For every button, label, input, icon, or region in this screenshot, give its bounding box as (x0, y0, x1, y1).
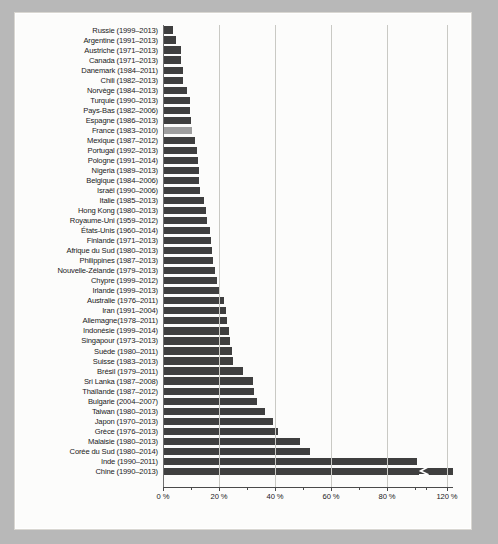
bar-segment (163, 367, 243, 374)
bar-category-label: Brésil (1979–2011) (15, 367, 163, 376)
bar-row: États-Unis (1960–2014) (15, 226, 473, 236)
bar-segment (163, 247, 212, 254)
bar-row: Afrique du Sud (1980–2013) (15, 246, 473, 256)
x-axis-tick-label: 120 % (436, 492, 457, 501)
x-axis-minor-tick (426, 487, 427, 490)
bar-category-label: Grèce (1976–2013) (15, 427, 163, 436)
bar-row: Singapour (1973–2013) (15, 336, 473, 346)
bar-row: Irlande (1999–2013) (15, 286, 473, 296)
bar-row: Inde (1990–2011) (15, 456, 473, 466)
bar-category-label: Singapour (1973–2013) (15, 336, 163, 345)
bar-row: Italie (1985–2013) (15, 196, 473, 206)
bar-row: Suède (1980–2011) (15, 346, 473, 356)
bar-track (163, 426, 473, 436)
bar-segment (163, 237, 211, 244)
bar-row: Finlande (1971–2013) (15, 236, 473, 246)
bar-row: Canada (1971–2013) (15, 55, 473, 65)
bar-row: Argentine (1991–2013) (15, 35, 473, 45)
bar-segment (163, 377, 253, 384)
bar-segment (163, 117, 191, 124)
bar-category-label: Argentine (1991–2013) (15, 36, 163, 45)
bar-category-label: Corée du Sud (1980–2014) (15, 447, 163, 456)
bar-category-label: Portugal (1992–2013) (15, 146, 163, 155)
x-axis-tick (219, 487, 220, 491)
bar-category-label: Chypre (1999–2012) (15, 276, 163, 285)
x-axis-minor-tick (415, 487, 416, 490)
x-axis: 0 %20 %40 %60 %80 %120 % (163, 487, 453, 517)
bar-segment (163, 187, 200, 194)
bar-category-label: Mexique (1987–2012) (15, 136, 163, 145)
bar-category-label: Sri Lanka (1987–2008) (15, 377, 163, 386)
bar-track (163, 115, 473, 125)
bar-category-label: Suède (1980–2011) (15, 347, 163, 356)
bar-rows: Russie (1999–2013)Argentine (1991–2013)A… (15, 25, 473, 487)
bar-row: Chypre (1999–2012) (15, 276, 473, 286)
x-axis-tick (331, 487, 332, 491)
bar-row: Danemark (1984–2011) (15, 65, 473, 75)
bar-track (163, 296, 473, 306)
x-axis-line (163, 487, 453, 488)
bar-segment (163, 468, 453, 475)
bar-category-label: Inde (1990–2011) (15, 457, 163, 466)
bar-track (163, 246, 473, 256)
bar-track (163, 406, 473, 416)
figure-canvas: Russie (1999–2013)Argentine (1991–2013)A… (0, 0, 498, 544)
x-axis-tick-label: 80 % (379, 492, 396, 501)
bar-row: Corée du Sud (1980–2014) (15, 446, 473, 456)
bar-segment (163, 67, 183, 74)
bar-track (163, 236, 473, 246)
bar-row: Bulgarie (2004–2007) (15, 396, 473, 406)
bar-track (163, 276, 473, 286)
bar-category-label: Pays-Bas (1982–2006) (15, 106, 163, 115)
bar-track (163, 216, 473, 226)
x-axis-minor-tick (359, 487, 360, 490)
bar-category-label: Chine (1990–2013) (15, 467, 163, 476)
x-axis-tick (163, 487, 164, 491)
bar-segment (163, 337, 230, 344)
bar-row: Espagne (1986–2013) (15, 115, 473, 125)
bar-track (163, 75, 473, 85)
x-axis-minor-tick (247, 487, 248, 490)
bar-row: Grèce (1976–2013) (15, 426, 473, 436)
bar-track (163, 326, 473, 336)
bar-category-label: Indonésie (1999–2014) (15, 326, 163, 335)
x-axis-tick (447, 487, 448, 491)
bar-track (163, 226, 473, 236)
bar-row: Russie (1999–2013) (15, 25, 473, 35)
bar-segment (163, 398, 257, 405)
bar-track (163, 356, 473, 366)
bar-row: Australie (1976–2011) (15, 296, 473, 306)
bar-row: Austriche (1971–2013) (15, 45, 473, 55)
x-axis-tick-label: 0 % (157, 492, 170, 501)
bar-row: Norvège (1984–2013) (15, 85, 473, 95)
bar-row: Japon (1970–2013) (15, 416, 473, 426)
bar-segment (163, 297, 224, 304)
bar-row: France (1983–2010) (15, 125, 473, 135)
bar-segment (163, 56, 181, 63)
bar-segment (163, 317, 227, 324)
bar-category-label: Afrique du Sud (1980–2013) (15, 246, 163, 255)
bar-track (163, 366, 473, 376)
bar-category-label: Malaisie (1980–2013) (15, 437, 163, 446)
bar-segment (163, 137, 195, 144)
bar-track (163, 346, 473, 356)
bar-category-label: Nouvelle-Zélande (1979–2013) (15, 266, 163, 275)
bar-row: Hong Kong (1980–2013) (15, 206, 473, 216)
bar-segment (163, 207, 206, 214)
x-axis-minor-tick (303, 487, 304, 490)
chart-paper: Russie (1999–2013)Argentine (1991–2013)A… (14, 12, 472, 530)
bar-category-label: Chili (1982–2013) (15, 76, 163, 85)
bar-segment (163, 458, 417, 465)
bar-category-label: Australie (1976–2011) (15, 296, 163, 305)
bar-segment (163, 197, 204, 204)
bar-category-label: France (1983–2010) (15, 126, 163, 135)
bar-row: Pologne (1991–2014) (15, 155, 473, 165)
bar-segment (163, 77, 183, 84)
bar-row: Royaume-Uni (1959–2012) (15, 216, 473, 226)
bar-row: Sri Lanka (1987–2008) (15, 376, 473, 386)
bar-row: Nouvelle-Zélande (1979–2013) (15, 266, 473, 276)
bar-category-label: Bulgarie (2004–2007) (15, 397, 163, 406)
bar-category-label: Turquie (1990–2013) (15, 96, 163, 105)
bar-category-label: Japon (1970–2013) (15, 417, 163, 426)
bar-track (163, 85, 473, 95)
